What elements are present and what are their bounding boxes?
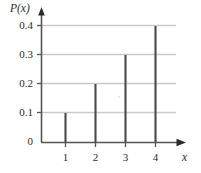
- y-tick-label-0: 0: [4, 136, 33, 147]
- probability-bar-chart: P(x) x 0.4 0.3 0.2 0.1 0 1 2 3 4: [0, 0, 201, 173]
- x-tick-label-2: 2: [86, 152, 105, 163]
- y-axis-title: P(x): [10, 3, 30, 15]
- scan-artifact: [118, 96, 120, 98]
- x-axis: [41, 139, 186, 146]
- y-tick-label-0.4: 0.4: [4, 20, 33, 31]
- x-tick-label-3: 3: [116, 152, 135, 163]
- x-axis-title: x: [182, 152, 187, 164]
- y-axis-ticks: [37, 26, 41, 113]
- y-axis: [38, 7, 45, 142]
- y-axis-arrow-icon: [38, 7, 45, 16]
- y-tick-label-0.1: 0.1: [4, 107, 33, 118]
- y-tick-label-0.2: 0.2: [4, 78, 33, 89]
- x-tick-label-4: 4: [146, 152, 165, 163]
- x-tick-label-1: 1: [56, 152, 75, 163]
- x-axis-arrow-icon: [177, 139, 187, 146]
- y-tick-label-0.3: 0.3: [4, 49, 33, 60]
